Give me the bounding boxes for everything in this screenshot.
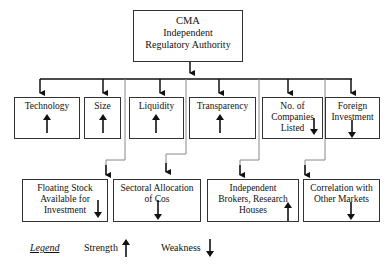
strength-arrow-icon xyxy=(284,202,292,221)
legend-weakness-label: Weakness xyxy=(161,242,201,253)
factor-label: Technology xyxy=(15,98,79,112)
factor-transparency: Transparency xyxy=(189,97,256,139)
factor-liquidity: Liquidity xyxy=(129,97,184,139)
factor-floating-stock: Floating Stock Available for Investment xyxy=(22,179,108,222)
legend-weakness-arrow-icon xyxy=(206,239,214,257)
factor-no-of-companies-listed: No. of Companies Listed xyxy=(262,97,323,139)
factor-label: Correlation with Other Markets xyxy=(304,180,379,205)
root-node: CMA Independent Regulatory Authority xyxy=(133,10,243,62)
legend-title: Legend xyxy=(30,242,59,253)
factor-label: Liquidity xyxy=(130,98,183,112)
factor-sectoral-allocation: Sectoral Allocation of Cos xyxy=(113,179,201,222)
weakness-arrow-icon xyxy=(347,202,355,220)
weakness-arrow-icon xyxy=(348,120,356,138)
root-line-3: Regulatory Authority xyxy=(134,39,242,51)
strength-arrow-icon xyxy=(216,114,224,133)
legend-strength-arrow-icon xyxy=(122,239,130,257)
weakness-arrow-icon xyxy=(310,118,318,135)
factor-size: Size xyxy=(84,97,121,139)
factor-technology: Technology xyxy=(14,97,80,139)
factor-correlation: Correlation with Other Markets xyxy=(303,179,380,222)
factor-label: Transparency xyxy=(190,98,255,112)
weakness-arrow-icon xyxy=(94,200,102,218)
weakness-arrow-icon xyxy=(154,200,162,220)
root-line-2: Independent xyxy=(134,27,242,39)
factor-label: Size xyxy=(85,98,120,112)
strength-arrow-icon xyxy=(43,114,51,133)
strength-arrow-icon xyxy=(99,114,107,133)
root-line-1: CMA xyxy=(134,14,242,27)
factor-independent-brokers: Independent Brokers, Research Houses xyxy=(207,179,299,222)
legend-strength-label: Strength xyxy=(84,242,118,253)
factor-foreign-investment: Foreign Investment xyxy=(325,97,380,139)
strength-arrow-icon xyxy=(152,114,160,133)
